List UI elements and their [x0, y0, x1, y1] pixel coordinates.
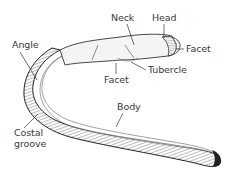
label-body: Body [117, 102, 141, 112]
label-facet-head: Facet [186, 44, 211, 54]
label-costal-groove-line1: Costal [14, 128, 43, 138]
label-neck: Neck [111, 13, 134, 23]
label-angle: Angle [12, 40, 39, 50]
label-head: Head [152, 13, 176, 23]
label-facet-tubercle: Facet [104, 75, 129, 85]
leader-costal-groove [24, 114, 38, 128]
leader-tubercle [131, 62, 146, 70]
label-costal-groove-line2: groove [14, 139, 46, 149]
label-tubercle: Tubercle [148, 65, 187, 75]
leader-body [116, 113, 123, 127]
rib-diagram: Angle Neck Head Facet Tubercle Facet Bod… [0, 0, 234, 169]
